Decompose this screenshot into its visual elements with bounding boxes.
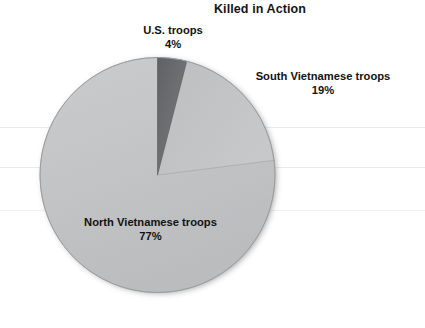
chart-title: Killed in Action	[0, 2, 425, 16]
slice-label-us-troops-name: U.S. troops	[143, 24, 203, 36]
slice-label-us-troops: U.S. troops 4%	[108, 24, 238, 51]
chart-page: Killed in Action	[0, 0, 425, 328]
slice-label-south-vietnamese-name: South Vietnamese troops	[256, 70, 391, 82]
slice-label-north-vietnamese: North Vietnamese troops 77%	[58, 216, 243, 243]
slice-label-south-vietnamese-percent: 19%	[232, 84, 414, 98]
slice-label-north-vietnamese-percent: 77%	[58, 230, 243, 244]
slice-label-south-vietnamese: South Vietnamese troops 19%	[232, 70, 414, 97]
slice-label-north-vietnamese-name: North Vietnamese troops	[84, 216, 217, 228]
slice-label-us-troops-percent: 4%	[108, 38, 238, 52]
